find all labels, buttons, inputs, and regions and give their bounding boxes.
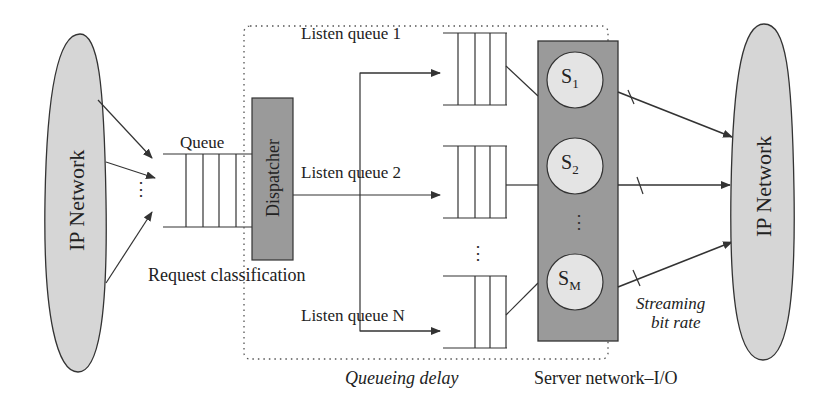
dispatcher-label: Dispatcher xyxy=(264,128,282,228)
streaming-label-line1: Streaming xyxy=(636,295,705,312)
queue-label: Queue xyxy=(180,134,224,151)
listen-queue-2-label: Listen queue 2 xyxy=(301,164,401,181)
right-network-label: IP Network xyxy=(753,137,775,237)
input-ellipsis-icon: ⋮ xyxy=(132,179,150,199)
listen-queue-n xyxy=(443,276,507,348)
request-classification-label: Request classification xyxy=(148,266,305,284)
listen-queue-1 xyxy=(443,33,507,105)
queue-ellipsis-icon: ⋮ xyxy=(469,243,487,263)
left-network-label: IP Network xyxy=(66,151,88,251)
diagram-canvas: ⋮ ⋮ xyxy=(0,0,836,411)
rate-ticks xyxy=(628,90,643,286)
input-queue xyxy=(163,154,252,227)
listen-queue-2 xyxy=(443,146,507,218)
dispatch-lines xyxy=(293,73,440,331)
listen-queue-n-label: Listen queue N xyxy=(301,307,405,324)
streaming-label-line2: bit rate xyxy=(651,314,701,331)
queueing-delay-label: Queueing delay xyxy=(345,369,458,387)
server-sm-label: SM xyxy=(558,268,581,292)
server-s2-label: S2 xyxy=(561,152,579,176)
queue-server-links xyxy=(506,66,538,315)
server-s1-label: S1 xyxy=(561,66,579,90)
listen-queue-1-label: Listen queue 1 xyxy=(301,25,401,42)
server-ellipsis-icon: ⋮ xyxy=(570,212,588,232)
output-arrows xyxy=(618,92,732,287)
server-io-label: Server network–I/O xyxy=(534,369,677,387)
